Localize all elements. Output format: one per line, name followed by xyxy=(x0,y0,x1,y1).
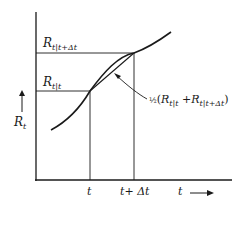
r-t-t-label: Rt|t xyxy=(43,75,61,91)
right-arrow-icon xyxy=(207,190,214,196)
leader-line xyxy=(117,76,147,99)
x-tick-t-dt: t+ Δt xyxy=(120,185,150,198)
up-arrow-icon xyxy=(19,90,25,96)
average-label: ½(Rt|t +Rt|t+Δt) xyxy=(149,93,229,108)
y-axis-label: Rt xyxy=(14,115,26,131)
x-axis-label: t xyxy=(178,185,182,198)
x-tick-t: t xyxy=(87,185,91,198)
r-t-tdt-label: Rt|t+Δt xyxy=(43,36,77,52)
